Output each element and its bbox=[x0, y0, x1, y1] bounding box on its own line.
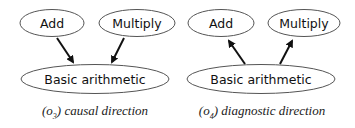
node-multiply-label: Multiply bbox=[112, 16, 162, 31]
node-multiply: Multiply bbox=[99, 10, 175, 37]
caption-causal-direction: (o3) causal direction bbox=[42, 103, 148, 121]
caption-suffix: ) diagnostic direction bbox=[214, 103, 325, 118]
node-multiply-label: Multiply bbox=[279, 16, 329, 31]
node-basic-arithmetic-label: Basic arithmetic bbox=[44, 72, 145, 87]
node-basic-arithmetic: Basic arithmetic bbox=[21, 65, 169, 94]
panel-diagnostic-direction: Add Multiply Basic arithmetic bbox=[187, 10, 340, 94]
node-add-label: Add bbox=[209, 16, 233, 31]
node-add-label: Add bbox=[40, 16, 64, 31]
node-basic-arithmetic: Basic arithmetic bbox=[187, 65, 335, 94]
caption-prefix: (o bbox=[42, 103, 53, 118]
caption-suffix: ) causal direction bbox=[57, 103, 148, 118]
edge-basic-to-multiply bbox=[280, 41, 292, 64]
node-add: Add bbox=[188, 10, 254, 37]
edge-multiply-to-basic bbox=[112, 38, 124, 62]
node-basic-arithmetic-label: Basic arithmetic bbox=[210, 72, 311, 87]
caption-diagnostic-direction: (o4) diagnostic direction bbox=[199, 103, 325, 121]
panel-causal-direction: Add Multiply Basic arithmetic bbox=[20, 10, 175, 94]
node-multiply: Multiply bbox=[268, 10, 340, 37]
edge-basic-to-add bbox=[229, 41, 245, 64]
node-add: Add bbox=[20, 10, 84, 37]
caption-prefix: (o bbox=[199, 103, 210, 118]
edge-add-to-basic bbox=[57, 38, 73, 62]
